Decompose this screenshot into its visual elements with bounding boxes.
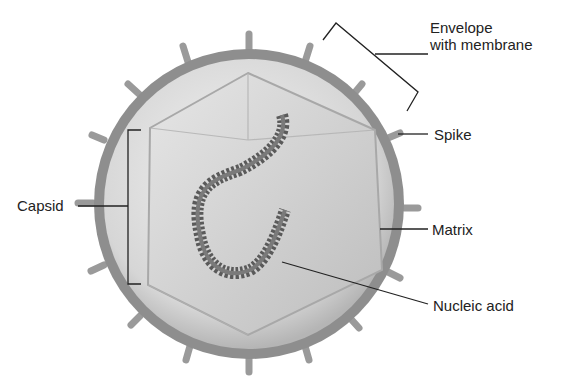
- label-nucleic-acid: Nucleic acid: [433, 297, 514, 314]
- virus-diagram: [0, 0, 570, 386]
- label-spike: Spike: [434, 126, 472, 143]
- label-envelope: Envelope with membrane: [430, 19, 533, 53]
- label-capsid: Capsid: [17, 197, 64, 214]
- label-envelope-line1: Envelope: [430, 19, 533, 36]
- label-envelope-line2: with membrane: [430, 36, 533, 53]
- label-matrix: Matrix: [432, 221, 473, 238]
